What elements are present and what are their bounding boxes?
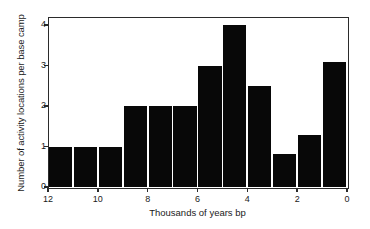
- y-tick-label: 0: [6, 182, 46, 191]
- x-tick-label: 12: [33, 194, 63, 204]
- histogram-bar: [74, 147, 97, 187]
- histogram-bar: [149, 106, 172, 187]
- x-tick-label: 6: [183, 194, 213, 204]
- histogram-bar: [248, 86, 271, 187]
- x-tick-mark: [247, 188, 248, 192]
- x-tick-label: 8: [133, 194, 163, 204]
- histogram-bar: [323, 62, 346, 187]
- histogram-bar: [173, 106, 196, 187]
- x-tick-mark: [47, 188, 48, 192]
- histogram-bar: [99, 147, 122, 187]
- x-tick-mark: [147, 188, 148, 192]
- y-tick-label: 3: [6, 61, 46, 70]
- x-tick-label: 10: [83, 194, 113, 204]
- histogram-bar: [49, 147, 72, 187]
- y-tick-label: 2: [6, 101, 46, 110]
- x-tick-label: 4: [232, 194, 262, 204]
- y-tick-label: 4: [6, 20, 46, 29]
- x-axis-label: Thousands of years bp: [48, 207, 347, 218]
- histogram-figure: Number of activity locations per base ca…: [0, 0, 370, 229]
- x-tick-mark: [197, 188, 198, 192]
- histogram-bar: [198, 66, 221, 187]
- histogram-bar: [273, 154, 296, 187]
- x-tick-mark: [346, 188, 347, 192]
- x-tick-mark: [296, 188, 297, 192]
- histogram-bar: [223, 25, 246, 187]
- x-tick-label: 2: [282, 194, 312, 204]
- histogram-bar: [124, 106, 147, 187]
- x-tick-mark: [97, 188, 98, 192]
- y-tick-label: 1: [6, 142, 46, 151]
- histogram-bar: [298, 135, 321, 187]
- x-tick-label: 0: [332, 194, 362, 204]
- bars-group: [48, 17, 347, 187]
